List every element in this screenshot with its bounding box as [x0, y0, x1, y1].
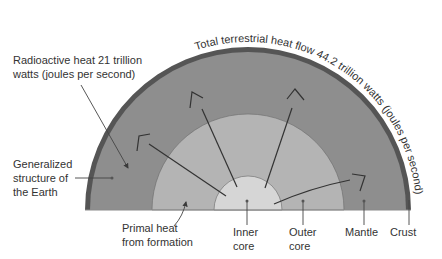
outer-core-label-line2: core: [289, 240, 310, 252]
earth-structure-diagram: Radioactive heat 21 trillion watts (joul…: [0, 0, 442, 259]
structure-label-line3: the Earth: [13, 186, 58, 198]
structure-label-line1: Generalized: [13, 158, 72, 170]
outer-core-label-line1: Outer: [289, 226, 317, 238]
mantle-label: Mantle: [345, 226, 378, 238]
inner-core-label-line1: Inner: [233, 226, 258, 238]
crust-label: Crust: [390, 226, 416, 238]
inner-core-label-line2: core: [233, 240, 254, 252]
radioactive-heat-label-line1: Radioactive heat 21 trillion: [13, 54, 142, 66]
radioactive-heat-label-line2: watts (joules per second): [12, 68, 135, 80]
primal-heat-label-line2: from formation: [122, 236, 193, 248]
primal-heat-label-line1: Primal heat: [122, 222, 178, 234]
structure-label-line2: structure of: [13, 172, 69, 184]
